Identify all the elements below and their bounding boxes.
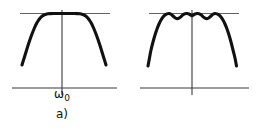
omega-symbol-a: ω [54, 87, 64, 101]
plot-area-b [131, 0, 263, 132]
figure-panel-a: ω0 a) [0, 0, 131, 132]
omega-subscript-a: 0 [64, 93, 70, 103]
figure-panel-b: ω0 b) [131, 0, 262, 132]
figure-root: ω0 a) ω0 b) [0, 0, 263, 132]
response-curve-a [22, 13, 106, 65]
panel-caption-a: a) [40, 108, 84, 120]
x-axis-tick-label-omega-zero-a: ω0 [40, 88, 84, 103]
